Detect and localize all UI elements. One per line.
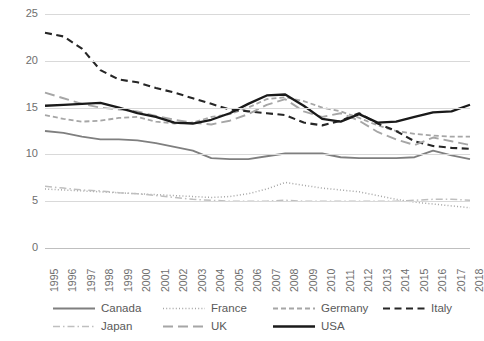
series-line-germany bbox=[45, 97, 470, 136]
legend-swatch-japan bbox=[52, 321, 96, 332]
y-tick-label-15: 15 bbox=[4, 102, 38, 113]
series-layer bbox=[45, 14, 470, 248]
x-tick-label-2016: 2016 bbox=[437, 278, 448, 292]
x-tick-label-2000: 2000 bbox=[141, 278, 152, 292]
x-tick-label-2015: 2015 bbox=[419, 278, 430, 292]
legend-swatch-usa bbox=[272, 321, 316, 332]
y-tick-label-0: 0 bbox=[4, 242, 38, 253]
legend-swatch-uk bbox=[162, 321, 206, 332]
legend-row-1: CanadaFranceGermanyItaly bbox=[22, 300, 462, 317]
grid-line-20 bbox=[45, 61, 470, 62]
series-line-france bbox=[45, 182, 470, 207]
y-tick-label-20: 20 bbox=[4, 55, 38, 66]
legend-item-uk[interactable]: UK bbox=[162, 318, 227, 335]
legend-swatch-germany bbox=[272, 303, 316, 314]
x-tick-label-1999: 1999 bbox=[123, 278, 134, 292]
x-tick-label-2008: 2008 bbox=[289, 278, 300, 292]
x-tick-label-2007: 2007 bbox=[271, 278, 282, 292]
legend-label-usa: USA bbox=[321, 318, 345, 335]
grid-line-10 bbox=[45, 154, 470, 155]
x-tick-label-2017: 2017 bbox=[456, 278, 467, 292]
x-tick-label-1997: 1997 bbox=[86, 278, 97, 292]
x-tick-label-1995: 1995 bbox=[49, 278, 60, 292]
x-tick-label-1996: 1996 bbox=[67, 278, 78, 292]
x-tick-label-2018: 2018 bbox=[474, 278, 484, 292]
grid-line-25 bbox=[45, 14, 470, 15]
legend-item-usa[interactable]: USA bbox=[272, 318, 345, 335]
legend-item-japan[interactable]: Japan bbox=[52, 318, 132, 335]
x-tick-label-2011: 2011 bbox=[345, 278, 356, 292]
grid-line-15 bbox=[45, 108, 470, 109]
x-tick-label-2003: 2003 bbox=[197, 278, 208, 292]
x-tick-label-2009: 2009 bbox=[308, 278, 319, 292]
y-tick-label-5: 5 bbox=[4, 195, 38, 206]
y-axis-labels: 0510152025 bbox=[0, 14, 38, 248]
legend-label-japan: Japan bbox=[101, 318, 132, 335]
legend-label-france: France bbox=[211, 300, 247, 317]
legend-item-france[interactable]: France bbox=[162, 300, 247, 317]
legend-label-uk: UK bbox=[211, 318, 227, 335]
y-tick-label-25: 25 bbox=[4, 8, 38, 19]
x-tick-label-1998: 1998 bbox=[104, 278, 115, 292]
series-line-japan bbox=[45, 186, 470, 201]
x-tick-label-2004: 2004 bbox=[215, 278, 226, 292]
x-tick-label-2001: 2001 bbox=[160, 278, 171, 292]
x-tick-label-2010: 2010 bbox=[326, 278, 337, 292]
line-chart: 0510152025 19951996199719981999200020012… bbox=[0, 0, 484, 341]
legend-label-germany: Germany bbox=[321, 300, 368, 317]
y-tick-label-10: 10 bbox=[4, 148, 38, 159]
legend-label-canada: Canada bbox=[101, 300, 141, 317]
x-tick-label-2013: 2013 bbox=[382, 278, 393, 292]
x-tick-label-2002: 2002 bbox=[178, 278, 189, 292]
x-tick-label-2014: 2014 bbox=[400, 278, 411, 292]
legend-label-italy: Italy bbox=[431, 300, 452, 317]
x-axis-labels: 1995199619971998199920002001200220032004… bbox=[45, 252, 470, 298]
x-tick-label-2006: 2006 bbox=[252, 278, 263, 292]
legend-swatch-italy bbox=[382, 303, 426, 314]
legend-item-canada[interactable]: Canada bbox=[52, 300, 141, 317]
chart-legend: CanadaFranceGermanyItaly JapanUKUSA bbox=[22, 300, 462, 338]
legend-swatch-canada bbox=[52, 303, 96, 314]
x-tick-label-2012: 2012 bbox=[363, 278, 374, 292]
legend-swatch-france bbox=[162, 303, 206, 314]
grid-line-5 bbox=[45, 201, 470, 202]
x-tick-label-2005: 2005 bbox=[234, 278, 245, 292]
plot-area bbox=[45, 14, 470, 248]
legend-item-italy[interactable]: Italy bbox=[382, 300, 452, 317]
series-line-italy bbox=[45, 33, 470, 149]
legend-row-2: JapanUKUSA bbox=[22, 318, 462, 335]
grid-line-0 bbox=[45, 248, 470, 249]
legend-item-germany[interactable]: Germany bbox=[272, 300, 368, 317]
